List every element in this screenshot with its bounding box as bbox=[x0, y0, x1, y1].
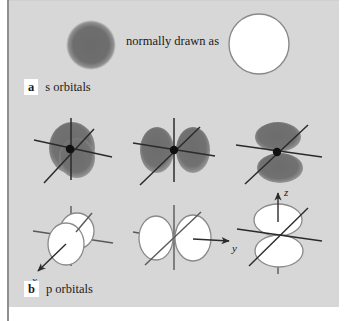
caption-b: b p orbitals bbox=[24, 281, 93, 297]
normally-drawn-as-label: normally drawn as bbox=[126, 34, 219, 49]
pz-axis-label: z bbox=[283, 186, 289, 198]
px-orbital-outline: x bbox=[31, 206, 113, 286]
pz-orbital-outline: z bbox=[237, 186, 322, 274]
pz-outline-lobe-bottom bbox=[255, 235, 303, 267]
pz-shaded-nucleus bbox=[273, 148, 281, 156]
py-axis-label: y bbox=[231, 242, 237, 254]
caption-a-text: s orbitals bbox=[45, 80, 90, 95]
py-orbital-shaded bbox=[133, 118, 215, 185]
caption-a-letter: a bbox=[24, 79, 38, 95]
pz-orbital-shaded bbox=[236, 122, 322, 184]
px-orbital-shaded bbox=[34, 118, 112, 183]
py-outline-lobe-left bbox=[139, 216, 173, 260]
px-shaded-nucleus bbox=[66, 145, 74, 153]
s-orbital-shaded bbox=[66, 20, 116, 70]
caption-a: a s orbitals bbox=[24, 79, 91, 95]
py-shaded-nucleus bbox=[170, 146, 178, 154]
py-orbital-outline: y bbox=[133, 205, 237, 270]
py-outline-lobe-right bbox=[175, 215, 211, 261]
caption-b-text: p orbitals bbox=[46, 282, 93, 297]
orbitals-figure: x y z normally drawn as a s orbitals b bbox=[0, 0, 344, 321]
s-orbital-outline bbox=[229, 14, 289, 74]
caption-b-letter: b bbox=[24, 281, 39, 297]
